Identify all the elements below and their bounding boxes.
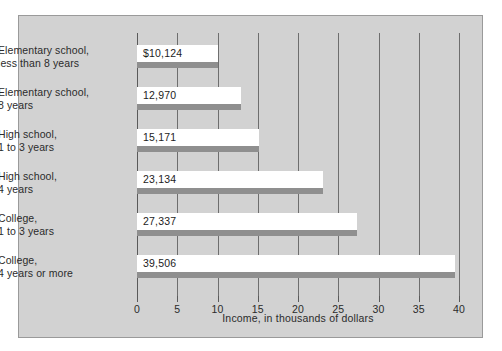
tick-40	[459, 296, 460, 302]
category-label-line: High school,	[0, 170, 128, 183]
tick-15	[258, 296, 259, 302]
tick-35	[419, 296, 420, 302]
tick-25	[338, 296, 339, 302]
category-label-line: College,	[0, 254, 128, 267]
tick-0	[137, 296, 138, 302]
bar-value-label: 23,134	[143, 173, 176, 185]
category-label-line: 8 years	[0, 99, 128, 112]
tick-30	[379, 296, 380, 302]
bar-group: Elementary school,less than 8 years$10,1…	[137, 45, 459, 68]
bar-shadow	[137, 188, 323, 194]
tick-10	[218, 296, 219, 302]
category-label-line: 4 years	[0, 183, 128, 196]
bar-shadow	[137, 104, 241, 110]
bar-group: High school,1 to 3 years15,171	[137, 129, 459, 152]
category-label: High school,1 to 3 years	[0, 128, 128, 154]
gridline-40	[459, 33, 460, 296]
bar-group: Elementary school,8 years12,970	[137, 87, 459, 110]
category-label: Elementary school,8 years	[0, 86, 128, 112]
category-label-line: 1 to 3 years	[0, 225, 128, 238]
plot-area: 0510152025303540 Elementary school,less …	[137, 33, 459, 296]
bar-group: College,1 to 3 years27,337	[137, 213, 459, 236]
bar-shadow	[137, 272, 455, 278]
x-axis-title: Income, in thousands of dollars	[137, 312, 459, 324]
chart-panel: 0510152025303540 Elementary school,less …	[18, 15, 483, 338]
bar-shadow	[137, 230, 357, 236]
category-label-line: 4 years or more	[0, 267, 128, 280]
bar-shadow	[137, 62, 218, 68]
tick-5	[177, 296, 178, 302]
bar-value-label: 12,970	[143, 89, 176, 101]
bar-value-label: $10,124	[143, 47, 182, 59]
bar-value-label: 39,506	[143, 257, 176, 269]
bar	[137, 255, 455, 272]
category-label: High school,4 years	[0, 170, 128, 196]
category-label: College,4 years or more	[0, 254, 128, 280]
tick-20	[298, 296, 299, 302]
bar-value-label: 27,337	[143, 215, 176, 227]
bar-group: High school,4 years23,134	[137, 171, 459, 194]
category-label-line: College,	[0, 212, 128, 225]
category-label-line: High school,	[0, 128, 128, 141]
category-label: Elementary school,less than 8 years	[0, 44, 128, 70]
category-label-line: 1 to 3 years	[0, 141, 128, 154]
bar-shadow	[137, 146, 259, 152]
category-label-line: Elementary school,	[0, 86, 128, 99]
category-label: College,1 to 3 years	[0, 212, 128, 238]
category-label-line: Elementary school,	[0, 44, 128, 57]
bar-group: College,4 years or more39,506	[137, 255, 459, 278]
bar-value-label: 15,171	[143, 131, 176, 143]
chart-figure: 0510152025303540 Elementary school,less …	[0, 0, 502, 351]
category-label-line: less than 8 years	[0, 57, 128, 70]
